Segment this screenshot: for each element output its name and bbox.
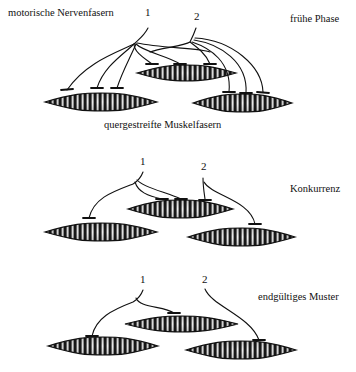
muscle-fiber-b: [128, 200, 233, 218]
neuron-2-axon-competition: [203, 178, 255, 224]
neuron-2-axon-early: [150, 28, 263, 93]
muscle-fiber-b: [125, 316, 238, 332]
muscle-fiber-a: [45, 223, 157, 241]
neuron-2-label-competition: 2: [201, 160, 207, 172]
muscle-fiber-c: [193, 94, 292, 112]
neuron-1-label-final: 1: [140, 273, 146, 285]
phase-label-early: frühe Phase: [290, 13, 339, 25]
muscle-fiber-a: [48, 337, 158, 355]
motor-nerve-fibers-label: motorische Nervenfasern: [8, 7, 114, 19]
neuron-1-label-competition: 1: [140, 155, 146, 167]
striated-muscle-fibers-label: quergestreifte Muskelfasern: [104, 119, 221, 131]
muscle-fiber-c: [188, 228, 295, 246]
neuron-2-label-early: 2: [194, 10, 200, 22]
phase-label-competition: Konkurrenz: [290, 183, 340, 195]
neuron-2-axon-final: [205, 289, 259, 340]
muscle-fiber-a: [45, 93, 157, 111]
neuron-2-label-final: 2: [202, 273, 208, 285]
muscle-fiber-b: [137, 65, 236, 81]
muscle-fiber-c: [186, 341, 296, 359]
phase-label-final: endgültiges Muster: [258, 291, 339, 303]
muscle-fibers: [45, 65, 296, 359]
neuron-1-label-early: 1: [145, 6, 151, 18]
